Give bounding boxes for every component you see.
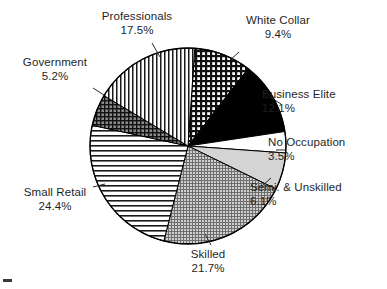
- pie-label-skilled-value: 21.7%: [160, 262, 256, 276]
- pie-label-white-collar-name: White Collar: [222, 14, 334, 28]
- pie-label-government-name: Government: [2, 56, 108, 70]
- pie-label-skilled: Skilled 21.7%: [160, 248, 256, 275]
- pie-label-business-elite: Business Elite 12.1%: [262, 88, 386, 115]
- pie-label-small-retail: Small Retail 24.4%: [2, 186, 108, 213]
- pie-label-semi-unskilled: Semi. & Unskilled 6.1%: [250, 181, 386, 208]
- pie-label-no-occupation-value: 3.5%: [268, 150, 386, 164]
- pie-label-skilled-name: Skilled: [160, 248, 256, 262]
- pie-label-small-retail-value: 24.4%: [2, 200, 108, 214]
- pie-label-semi-unskilled-name: Semi. & Unskilled: [250, 181, 386, 195]
- pie-label-government-value: 5.2%: [2, 70, 108, 84]
- pie-label-business-elite-name: Business Elite: [262, 88, 386, 102]
- pie-label-professionals-value: 17.5%: [75, 24, 199, 38]
- pie-label-semi-unskilled-value: 6.1%: [250, 195, 386, 209]
- pie-chart: Professionals 17.5% White Collar 9.4% Go…: [0, 0, 387, 289]
- pie-label-no-occupation-name: No Occupation: [268, 136, 386, 150]
- pie-label-professionals-name: Professionals: [75, 10, 199, 24]
- scan-artifact-mark: [3, 279, 12, 282]
- pie-label-no-occupation: No Occupation 3.5%: [268, 136, 386, 163]
- pie-label-white-collar: White Collar 9.4%: [222, 14, 334, 41]
- pie-label-small-retail-name: Small Retail: [2, 186, 108, 200]
- pie-label-white-collar-value: 9.4%: [222, 28, 334, 42]
- pie-label-government: Government 5.2%: [2, 56, 108, 83]
- leader-government: [93, 88, 104, 95]
- pie-slices: [90, 48, 286, 244]
- pie-label-business-elite-value: 12.1%: [262, 102, 386, 116]
- pie-label-professionals: Professionals 17.5%: [75, 10, 199, 37]
